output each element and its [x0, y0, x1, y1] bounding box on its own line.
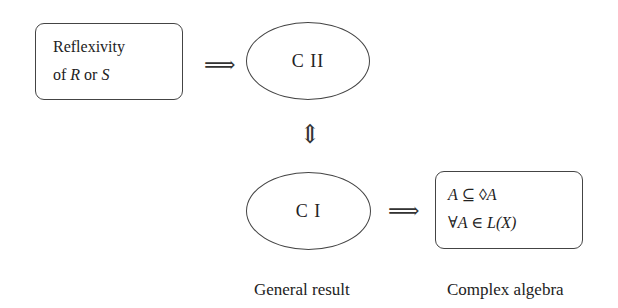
premise-line1: Reflexivity — [53, 33, 125, 61]
premise-box: Reflexivity of R or S — [35, 23, 183, 100]
premise-line2: of R or S — [53, 61, 125, 89]
result-line1: A ⊆ ◊A — [448, 181, 516, 209]
result-box: A ⊆ ◊A ∀A ∈ L(X) — [435, 171, 583, 249]
node-c2-label: C II — [292, 51, 325, 72]
node-c1: C I — [246, 172, 371, 250]
node-c1-label: C I — [296, 201, 322, 222]
caption-complex-algebra: Complex algebra — [447, 280, 564, 300]
equivalence-arrow: ⇕ — [299, 124, 321, 146]
implies-arrow-1: ⟹ — [204, 54, 236, 76]
result-line2: ∀A ∈ L(X) — [448, 209, 516, 237]
node-c2: C II — [246, 22, 370, 100]
implies-arrow-2: ⟹ — [388, 200, 420, 222]
caption-general-result: General result — [254, 280, 350, 300]
